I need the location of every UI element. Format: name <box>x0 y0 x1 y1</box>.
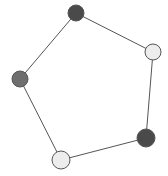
graph-node-n1 <box>68 5 84 21</box>
graph-node-n3 <box>137 129 155 147</box>
graph-figure <box>0 0 168 176</box>
graph-node-n4 <box>52 151 70 169</box>
graph-node-n2 <box>145 44 161 60</box>
graph-edge-n3-n4 <box>61 138 146 160</box>
graph-edge-n1-n2 <box>76 13 153 52</box>
node-layer <box>12 5 161 169</box>
graph-edge-n2-n3 <box>146 52 153 138</box>
graph-canvas <box>0 0 168 176</box>
graph-edge-n5-n1 <box>20 13 76 79</box>
graph-node-n5 <box>12 71 28 87</box>
graph-edge-n4-n5 <box>20 79 61 160</box>
edge-layer <box>20 13 153 160</box>
